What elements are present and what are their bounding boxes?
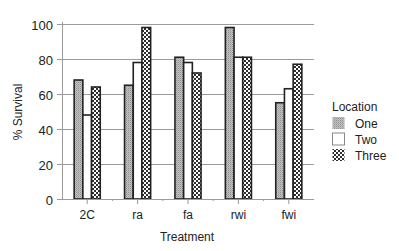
bar-two-2C bbox=[83, 115, 92, 199]
legend-label-three: Three bbox=[355, 149, 387, 163]
bar-two-fwi bbox=[284, 89, 293, 199]
y-tick-label: 40 bbox=[39, 123, 53, 138]
bar-two-fa bbox=[184, 63, 193, 200]
bar-chart: 020406080100 2Crafarwifwi % Survival Tre… bbox=[0, 0, 399, 251]
x-axis-title: Treatment bbox=[160, 230, 215, 244]
y-tick-label: 0 bbox=[46, 193, 53, 208]
bars bbox=[74, 28, 302, 200]
bar-one-rwi bbox=[225, 28, 234, 200]
x-axis-ticks: 2Crafarwifwi bbox=[80, 199, 297, 222]
y-tick-label: 100 bbox=[31, 18, 53, 33]
y-tick-label: 20 bbox=[39, 158, 53, 173]
bar-three-fwi bbox=[293, 64, 302, 199]
y-tick-label: 60 bbox=[39, 88, 53, 103]
bar-three-rwi bbox=[243, 57, 252, 199]
y-axis-title: % Survival bbox=[11, 84, 25, 141]
x-tick-label-2C: 2C bbox=[80, 208, 96, 222]
legend-swatch-one bbox=[333, 117, 345, 129]
x-tick-label-fa: fa bbox=[183, 208, 193, 222]
x-tick-label-rwi: rwi bbox=[231, 208, 246, 222]
legend-label-one: One bbox=[355, 117, 378, 131]
bar-two-ra bbox=[133, 63, 142, 200]
legend-swatch-three bbox=[333, 149, 345, 161]
y-tick-label: 80 bbox=[39, 53, 53, 68]
x-tick-label-fwi: fwi bbox=[281, 208, 296, 222]
bar-one-ra bbox=[125, 85, 134, 199]
legend-label-two: Two bbox=[355, 133, 377, 147]
bar-one-2C bbox=[74, 80, 83, 199]
legend-swatch-two bbox=[333, 133, 345, 145]
bar-three-ra bbox=[142, 28, 151, 200]
y-axis-ticks: 020406080100 bbox=[31, 18, 62, 208]
bar-one-fwi bbox=[276, 103, 285, 199]
bar-three-fa bbox=[192, 73, 201, 199]
bar-two-rwi bbox=[234, 57, 243, 199]
bar-one-fa bbox=[175, 57, 184, 199]
bar-three-2C bbox=[92, 87, 101, 199]
x-tick-label-ra: ra bbox=[132, 208, 143, 222]
legend-title: Location bbox=[332, 100, 377, 114]
legend: Location OneTwoThree bbox=[332, 100, 387, 163]
